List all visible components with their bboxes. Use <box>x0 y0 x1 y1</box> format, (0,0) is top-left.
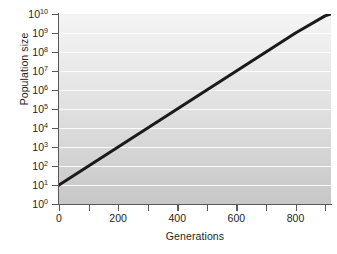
x-axis-tick-mark <box>148 205 149 211</box>
x-axis-tick-mark <box>266 205 267 211</box>
x-axis-tick-mark <box>59 205 60 211</box>
x-axis-tick-mark <box>236 205 237 211</box>
y-axis-tick-label: 106 <box>32 84 48 96</box>
x-axis-tick-mark <box>325 205 326 211</box>
tick-base: 10 <box>32 198 44 210</box>
y-axis-tick-label: 101 <box>32 179 48 191</box>
tick-base: 10 <box>32 27 44 39</box>
x-axis-tick-mark <box>177 205 178 211</box>
tick-base: 10 <box>32 65 44 77</box>
tick-base: 10 <box>28 8 40 20</box>
chart-figure: Population size 101010910810710610510410… <box>0 0 337 254</box>
x-axis-title: Generations <box>59 230 331 242</box>
tick-exponent: 4 <box>44 121 48 130</box>
data-series-layer <box>59 14 331 204</box>
x-axis-tick-label: 200 <box>93 212 143 224</box>
y-axis-tick-label: 100 <box>32 198 48 210</box>
tick-base: 10 <box>32 160 44 172</box>
tick-exponent: 3 <box>44 140 48 149</box>
tick-exponent: 0 <box>44 197 48 206</box>
tick-exponent: 8 <box>44 45 48 54</box>
tick-base: 10 <box>32 179 44 191</box>
tick-base: 10 <box>32 103 44 115</box>
x-axis-tick-label: 400 <box>152 212 202 224</box>
x-axis-tick-label: 600 <box>211 212 261 224</box>
cut-off-caption <box>8 246 188 254</box>
y-axis-tick-label: 107 <box>32 65 48 77</box>
y-axis-tick-label: 108 <box>32 46 48 58</box>
y-axis-tick-label: 1010 <box>28 8 48 20</box>
y-axis-tick-label: 103 <box>32 141 48 153</box>
y-axis-tick-label: 104 <box>32 122 48 134</box>
tick-base: 10 <box>32 122 44 134</box>
tick-exponent: 5 <box>44 102 48 111</box>
tick-exponent: 2 <box>44 159 48 168</box>
tick-base: 10 <box>32 46 44 58</box>
x-axis-tick-mark <box>89 205 90 211</box>
tick-exponent: 6 <box>44 83 48 92</box>
x-axis-tick-label: 0 <box>34 212 84 224</box>
tick-exponent: 1 <box>44 178 48 187</box>
x-axis-tick-mark <box>207 205 208 211</box>
y-axis-tick-label: 105 <box>32 103 48 115</box>
x-axis-tick-mark <box>296 205 297 211</box>
tick-exponent: 10 <box>40 7 48 16</box>
plot-area <box>59 14 331 204</box>
x-axis-line <box>58 204 332 205</box>
tick-exponent: 9 <box>44 26 48 35</box>
population-growth-line <box>59 14 331 185</box>
x-axis-tick-label: 800 <box>271 212 321 224</box>
x-axis-tick-mark <box>118 205 119 211</box>
tick-base: 10 <box>32 141 44 153</box>
tick-exponent: 7 <box>44 64 48 73</box>
tick-base: 10 <box>32 84 44 96</box>
y-axis-tick-label: 109 <box>32 27 48 39</box>
y-axis-tick-label: 102 <box>32 160 48 172</box>
